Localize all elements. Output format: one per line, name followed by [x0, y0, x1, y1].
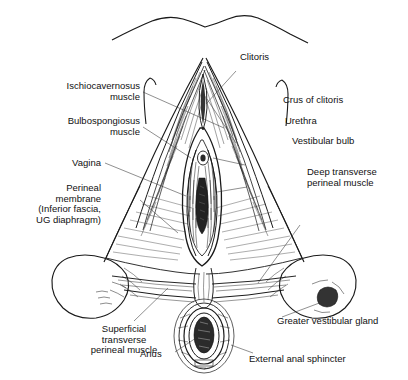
leader-vagina	[105, 163, 186, 196]
urethral-orifice	[198, 151, 209, 165]
deep-transverse-perineal-muscle	[112, 276, 296, 291]
label-greater-vestibular-gland: Greater vestibular gland	[277, 316, 378, 327]
label-vagina: Vagina	[0, 158, 101, 169]
label-superficial-transverse-perineal-muscle: Superficial transverse perineal muscle	[54, 324, 194, 356]
vestibule-interior	[196, 178, 208, 234]
mons-pubis-contour	[112, 16, 308, 43]
leader-crus-of-clitoris	[207, 99, 236, 143]
retractor-hook-left	[144, 78, 156, 124]
label-ischiocavernosus-muscle: Ischiocavernosus muscle	[0, 81, 140, 102]
leader-superficial-transverse	[134, 288, 168, 321]
labium-majus-fat-pad-left	[52, 255, 142, 318]
label-crus-of-clitoris: Crus of clitoris	[283, 95, 343, 106]
label-deep-transverse-perineal-muscle: Deep transverse perineal muscle	[307, 167, 377, 188]
labium-majus-fat-pad-right	[266, 255, 356, 318]
ischiocavernosus-muscle-left	[136, 62, 205, 236]
leader-external-anal-sphincter	[231, 345, 253, 353]
label-clitoris: Clitoris	[240, 52, 269, 63]
label-urethra: Urethra	[285, 116, 317, 127]
label-external-anal-sphincter: External anal sphincter	[249, 354, 346, 365]
label-perineal-membrane: Perineal membrane (Inferior fascia, UG d…	[0, 183, 101, 225]
label-bulbospongiosus-muscle: Bulbospongiosus muscle	[0, 116, 140, 137]
greater-vestibular-gland	[312, 280, 344, 313]
label-anus: Anus	[140, 349, 162, 360]
leader-deep-transverse	[258, 225, 300, 283]
leader-perineal-membrane	[140, 200, 178, 233]
label-vestibular-bulb: Vestibular bulb	[292, 136, 354, 147]
